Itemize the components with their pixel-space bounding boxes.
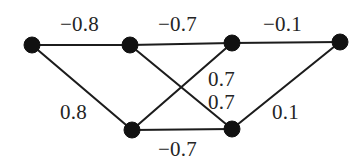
edge-weight-label: 0.8 — [60, 102, 87, 123]
graph-edge — [132, 129, 232, 130]
edge-weight-label: 0.7 — [208, 92, 235, 113]
graph-node — [24, 37, 40, 53]
edge-weight-label: −0.7 — [158, 139, 197, 160]
graph-node — [122, 37, 138, 53]
edge-weight-label: 0.7 — [208, 69, 235, 90]
graph-node — [332, 34, 348, 50]
edge-weight-label: 0.1 — [272, 102, 299, 123]
weighted-graph-figure: −0.8−0.7−0.10.80.70.70.1−0.7 — [0, 0, 363, 165]
graph-edge — [232, 42, 340, 43]
graph-node — [124, 122, 140, 138]
edge-weight-label: −0.8 — [60, 14, 99, 35]
graph-node — [224, 35, 240, 51]
graph-node — [224, 121, 240, 137]
edge-weight-label: −0.1 — [263, 14, 302, 35]
graph-edge — [130, 43, 232, 45]
edge-weight-label: −0.7 — [158, 14, 197, 35]
